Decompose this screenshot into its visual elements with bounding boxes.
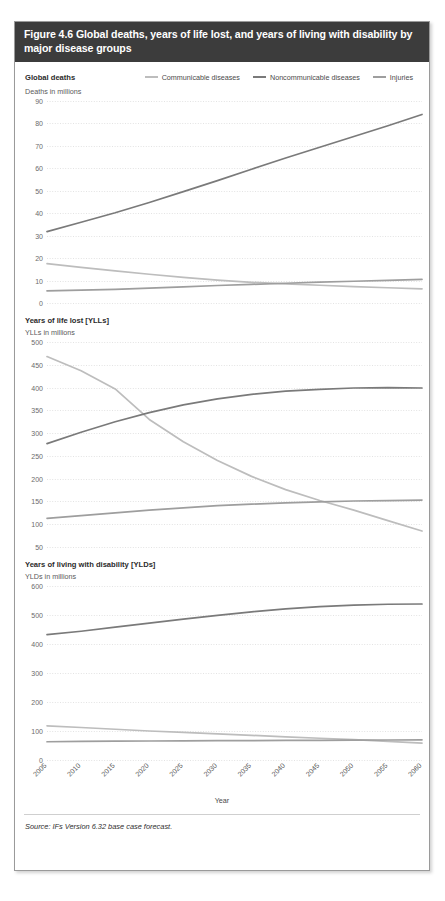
y-tick-label: 40	[35, 210, 43, 217]
global-deaths-plot: 0102030405060708090	[15, 97, 431, 309]
y-tick-label: 350	[31, 407, 43, 414]
x-tick-label: 2035	[236, 762, 252, 778]
y-tick-label: 60	[35, 165, 43, 172]
y-tick-label: 400	[31, 641, 43, 648]
y-tick-label: 600	[31, 583, 43, 590]
y-tick-label: 200	[31, 699, 43, 706]
legend-label-noncommunicable: Noncommunicable diseases	[270, 73, 360, 82]
y-tick-label: 10	[35, 278, 43, 285]
panel-title-years-living-with-disability: Years of living with disability [YLDs]	[15, 553, 429, 569]
series-line-noncommunicable-diseases	[47, 115, 422, 232]
chart-legend: Communicable diseases Noncommunicable di…	[145, 73, 419, 82]
x-tick-label: 2030	[202, 762, 218, 778]
x-tick-label: 2020	[134, 762, 150, 778]
y-tick-label: 90	[35, 98, 43, 105]
x-tick-label: 2045	[304, 762, 320, 778]
legend-item-injuries[interactable]: Injuries	[373, 73, 413, 82]
y-tick-label: 50	[35, 188, 43, 195]
legend-swatch-injuries	[373, 76, 386, 78]
legend-item-noncommunicable[interactable]: Noncommunicable diseases	[253, 73, 360, 82]
figure-title: Figure 4.6 Global deaths, years of life …	[15, 22, 429, 62]
y-tick-label: 250	[31, 453, 43, 460]
x-tick-label: 2015	[100, 762, 116, 778]
y-tick-label: 200	[31, 476, 43, 483]
y-tick-label: 50	[35, 544, 43, 551]
x-tick-label: 2005	[32, 762, 48, 778]
legend-label-injuries: Injuries	[390, 73, 413, 82]
x-tick-label: 2025	[168, 762, 184, 778]
y-tick-label: 500	[31, 339, 43, 346]
y-tick-label: 0	[39, 300, 43, 307]
y-tick-label: 500	[31, 612, 43, 619]
series-line-noncommunicable-diseases	[47, 388, 422, 444]
figure-body: Global deaths Communicable diseases Nonc…	[15, 62, 429, 831]
series-line-injuries	[47, 740, 422, 742]
years-of-life-lost-plot: 50100150200250300350400450500	[15, 338, 431, 553]
x-tick-label: 2050	[339, 762, 355, 778]
x-tick-label: 2010	[66, 762, 82, 778]
panel-3-y-axis-unit: YLDs in millions	[15, 569, 429, 582]
x-tick-label: 2060	[407, 762, 423, 778]
years-living-with-disability-plot: 0100200300400500600200520102015202020252…	[15, 582, 431, 794]
figure-card: Figure 4.6 Global deaths, years of life …	[14, 21, 430, 871]
series-line-injuries	[47, 500, 422, 518]
panel-title-years-of-life-lost: Years of life lost [YLLs]	[15, 309, 429, 325]
y-tick-label: 20	[35, 255, 43, 262]
y-tick-label: 300	[31, 670, 43, 677]
y-tick-label: 70	[35, 143, 43, 150]
legend-swatch-noncommunicable	[253, 76, 266, 78]
x-axis-title: Year	[15, 796, 429, 805]
y-tick-label: 150	[31, 498, 43, 505]
x-tick-label: 2040	[270, 762, 286, 778]
y-tick-label: 300	[31, 430, 43, 437]
y-tick-label: 80	[35, 120, 43, 127]
panel-title-global-deaths: Global deaths	[25, 73, 75, 82]
chart-panel-years-of-life-lost: 50100150200250300350400450500	[15, 338, 429, 553]
y-tick-label: 450	[31, 362, 43, 369]
y-tick-label: 100	[31, 521, 43, 528]
x-tick-label: 2055	[373, 762, 389, 778]
legend-swatch-communicable	[145, 76, 158, 78]
legend-label-communicable: Communicable diseases	[162, 73, 240, 82]
series-line-noncommunicable-diseases	[47, 604, 422, 635]
legend-item-communicable[interactable]: Communicable diseases	[145, 73, 240, 82]
panel-1-y-axis-unit: Deaths in millions	[15, 84, 429, 97]
chart-panel-global-deaths: 0102030405060708090	[15, 97, 429, 309]
y-tick-label: 100	[31, 728, 43, 735]
panel-2-y-axis-unit: YLLs in millions	[15, 325, 429, 338]
y-tick-label: 30	[35, 233, 43, 240]
source-note: Source: IFs Version 6.32 base case forec…	[15, 815, 429, 831]
panel-1-header: Global deaths Communicable diseases Nonc…	[15, 62, 429, 84]
y-tick-label: 400	[31, 385, 43, 392]
chart-panel-years-living-with-disability: 0100200300400500600200520102015202020252…	[15, 582, 429, 794]
